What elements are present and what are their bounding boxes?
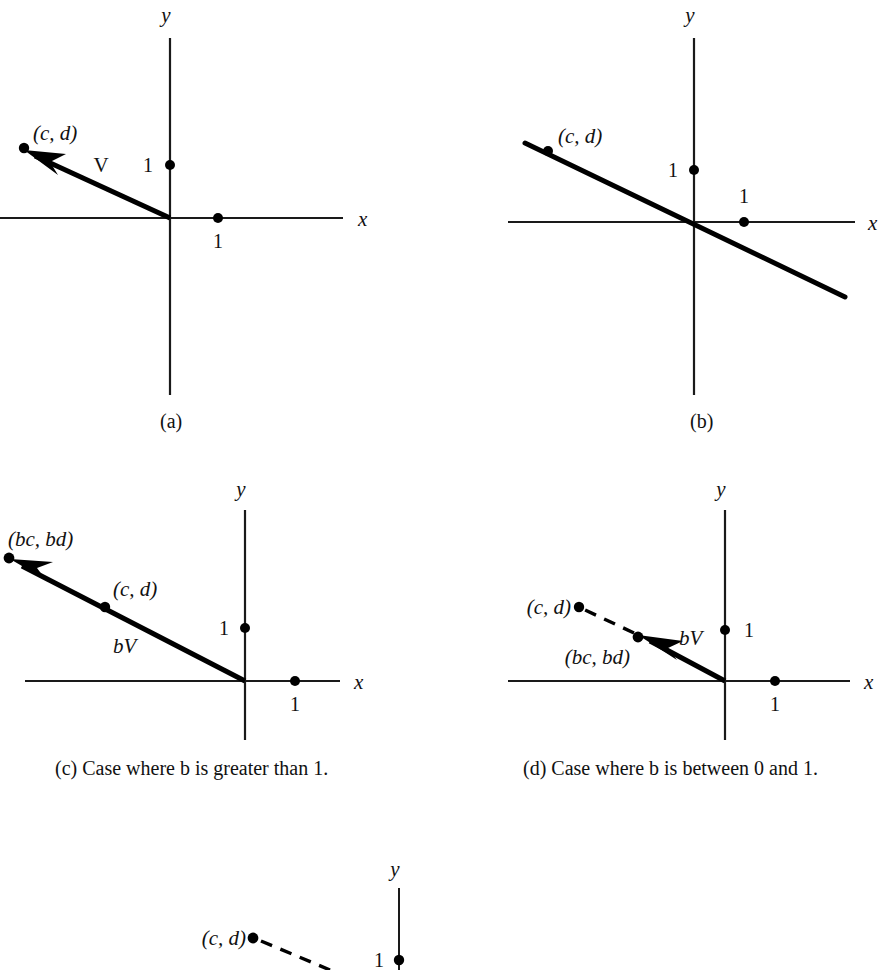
panel-c-x-axis-label: x [353,670,364,694]
panel-b-point-cd-dot [543,146,553,156]
panel-c-unit-dot-x [290,676,300,686]
panel-b-line-through-origin [525,143,845,297]
panel-d-tick-label-y: 1 [744,619,754,641]
panel-c-vector-label: bV [113,634,139,658]
panel-a-unit-dot-x [213,213,223,223]
panel-c-point-cd-label: (c, d) [113,577,157,601]
panel-d-point-bcbd-dot [633,632,644,643]
panel-b-unit-dot-x [739,217,749,227]
panel-a-y-axis-label: y [159,3,171,27]
panel-a-vector-label: V [93,153,108,177]
panel-c-unit-dot-y [240,623,250,633]
panel-c-point-bcbd-label: (bc, bd) [8,527,73,551]
panel-d-dashed-extension [583,609,634,633]
panel-e-unit-dot-y [394,955,404,965]
panel-e-point-cd-label: (c, d) [202,926,246,950]
panel-a-caption: (a) [160,410,182,433]
panel-d-unit-dot-x [770,676,780,686]
panel-b-tick-label-y: 1 [668,159,678,181]
panel-b-unit-dot-y [689,165,699,175]
panel-a-unit-dot-y [165,160,175,170]
panel-b: y x 1 1 (c, d) (b) [508,3,878,433]
panel-b-y-axis-label: y [683,3,695,27]
panel-e-dashed-extension [261,941,330,970]
panel-b-tick-label-x: 1 [739,185,749,207]
panel-d-point-cd-label: (c, d) [527,595,571,619]
panel-a: y x 1 1 (c, d) V (a) [0,3,368,433]
panel-a-arrowhead [24,150,66,175]
panel-d-x-axis-label: x [863,670,874,694]
panel-d-vector-label: bV [679,626,705,650]
panel-d: y x 1 1 (c, d) (bc, bd) bV (d) Case wher… [508,477,874,780]
panel-c-point-bcbd-dot [4,553,15,564]
panel-a-point-cd-dot [19,143,29,153]
panel-d-y-axis-label: y [714,477,726,501]
panel-e-y-axis-label: y [388,857,400,881]
panel-b-caption: (b) [690,410,713,433]
vector-scalar-multiplication-figure: y x 1 1 (c, d) V (a) y x 1 1 (c, d) (b) [0,0,878,970]
panel-a-tick-label-x: 1 [213,230,223,252]
panel-c: y x 1 1 (bc, bd) (c, d) bV (c) Case wher… [4,477,364,780]
panel-a-tick-label-y: 1 [143,154,153,176]
panel-c-point-cd-dot [100,602,110,612]
panel-b-x-axis-label: x [867,211,878,235]
panel-d-point-cd-dot [574,602,584,612]
panel-c-y-axis-label: y [234,477,246,501]
panel-a-x-axis-label: x [357,207,368,231]
panel-e-tick-label-y: 1 [374,949,384,970]
panel-e-point-cd-dot [248,933,259,944]
panel-d-caption: (d) Case where b is between 0 and 1. [523,757,818,780]
panel-c-tick-label-y: 1 [219,617,229,639]
panel-e: y 1 (c, d) [202,857,405,970]
panel-d-tick-label-x: 1 [770,693,780,715]
panel-a-point-cd-label: (c, d) [33,121,77,145]
panel-d-unit-dot-y [720,625,730,635]
panel-d-point-bcbd-label: (bc, bd) [565,645,630,669]
panel-b-point-cd-label: (c, d) [558,124,602,148]
figure-root: y x 1 1 (c, d) V (a) y x 1 1 (c, d) (b) [0,0,878,970]
panel-c-tick-label-x: 1 [290,693,300,715]
panel-c-caption: (c) Case where b is greater than 1. [55,757,328,780]
